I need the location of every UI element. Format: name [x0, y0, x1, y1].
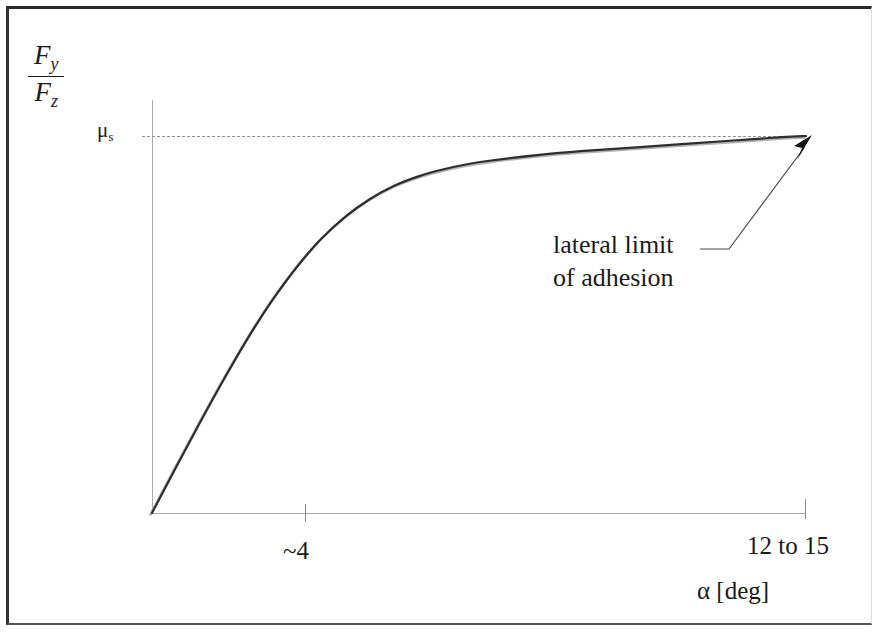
- x-axis-line: [152, 513, 806, 514]
- x-axis-label: α [deg]: [697, 578, 769, 603]
- figure-frame-border: [6, 6, 872, 625]
- y-axis-label: Fy Fz: [28, 40, 64, 112]
- y-axis-label-denominator: Fz: [28, 77, 64, 113]
- y-axis-label-denominator-subscript: z: [51, 90, 58, 110]
- x-tick-label-alpha-max: 12 to 15: [747, 533, 829, 558]
- mu-s-axis-label: μs: [97, 120, 114, 143]
- y-axis-line: [152, 100, 153, 514]
- x-tick-mark-alpha-4: [305, 504, 306, 522]
- y-axis-label-numerator-subscript: y: [51, 54, 59, 74]
- annotation-label-line-2: of adhesion: [553, 261, 674, 294]
- y-axis-label-numerator: Fy: [28, 40, 64, 77]
- tire-lateral-force-figure: Fy Fz μs ~4 12 to 15 α [deg] lateral lim…: [0, 0, 881, 633]
- annotation-label: lateral limit of adhesion: [553, 228, 674, 295]
- x-tick-label-alpha-4: ~4: [283, 538, 309, 563]
- annotation-label-line-1: lateral limit: [553, 228, 674, 261]
- mu-s-asymptote-dashed-line: [142, 136, 806, 137]
- mu-s-subscript: s: [108, 129, 113, 144]
- x-tick-mark-alpha-max: [805, 499, 806, 519]
